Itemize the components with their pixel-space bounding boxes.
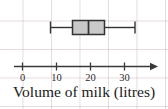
x-axis [14,63,158,71]
tick-label-10: 10 [51,72,62,83]
tick-label-30: 30 [119,72,130,83]
axis-arrowhead [150,63,158,70]
tick-label-0: 0 [20,72,25,83]
tick-label-20: 20 [85,72,96,83]
boxplot-figure: 0 10 20 30 Volume of milk (litres) [0,0,168,109]
x-axis-tick-labels: 0 10 20 30 [20,72,130,83]
x-axis-title: Volume of milk (litres) [0,84,168,100]
boxplot-series [51,21,136,35]
